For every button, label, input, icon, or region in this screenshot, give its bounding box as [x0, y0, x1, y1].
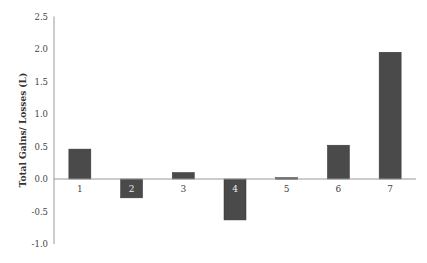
bar: [172, 173, 194, 180]
x-tick-label: 2: [129, 184, 135, 194]
y-tick-label: 0.5: [34, 142, 48, 152]
bar-chart: 2.52.01.51.00.50.0-0.5-1.01234567 Total …: [0, 0, 427, 263]
bar: [327, 145, 349, 179]
y-tick-label: 2.0: [34, 44, 48, 54]
bar: [69, 149, 91, 179]
x-tick-label: 6: [336, 184, 342, 194]
y-tick-label: -1.0: [32, 239, 48, 249]
y-tick-label: 2.5: [34, 12, 48, 22]
y-tick-label: -0.5: [32, 207, 48, 217]
x-tick-label: 7: [387, 184, 393, 194]
y-axis-label: Total Gains/ Losses (L): [18, 55, 28, 205]
x-tick-label: 5: [284, 184, 290, 194]
x-tick-label: 4: [232, 184, 238, 194]
y-tick-label: 1.0: [34, 109, 48, 119]
bar: [379, 52, 401, 179]
x-tick-label: 1: [77, 184, 83, 194]
y-tick-label: 1.5: [34, 77, 48, 87]
y-tick-label: 0.0: [34, 174, 48, 184]
x-tick-label: 3: [180, 184, 186, 194]
chart-canvas: 2.52.01.51.00.50.0-0.5-1.01234567: [0, 0, 427, 263]
